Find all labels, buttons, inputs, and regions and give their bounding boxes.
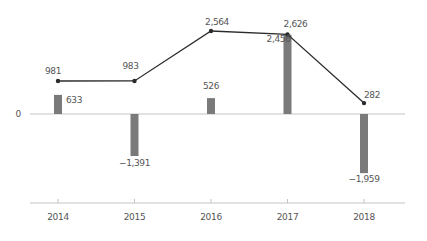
bar-label: −1,959 [349,174,381,184]
bar [360,114,368,173]
line-label: 2,564 [205,17,229,27]
line-point [209,29,213,33]
line-label: 282 [364,90,380,100]
bar [54,95,62,114]
line-point [362,101,366,105]
bar-label: 633 [66,95,82,105]
x-tick-label: 2018 [353,212,375,222]
line-point [56,79,60,83]
bar-label: 2,626 [284,19,308,29]
line-label: 983 [123,61,139,71]
x-tick-label: 2016 [200,212,222,222]
zero-label: 0 [16,109,22,119]
bar-label: 526 [203,81,220,91]
bar [131,114,139,156]
line-series [58,31,364,103]
x-tick-label: 2015 [124,212,146,222]
line-label: 2,456 [267,34,291,44]
bar-label: −1,391 [119,158,150,168]
line-label: 981 [45,66,61,76]
bar [284,35,292,114]
x-tick-label: 2014 [47,212,69,222]
chart: 0 20142015201620172018 633−1,3915262,626… [0,0,427,241]
line-point [132,79,136,83]
bar [207,98,215,114]
x-tick-label: 2017 [277,212,299,222]
